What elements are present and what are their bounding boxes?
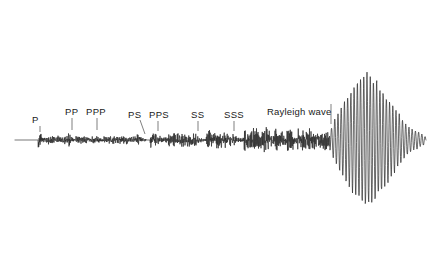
- phase-label-pps: PPS: [149, 110, 169, 120]
- phase-label-ps: PS: [128, 110, 141, 120]
- seismic-waveform-path: [15, 72, 426, 204]
- phase-label-p: P: [32, 115, 39, 125]
- seismogram-figure: P PP PPP PS PPS SS SSS Rayleigh wave: [0, 0, 439, 280]
- phase-label-ss: SS: [191, 110, 204, 120]
- phase-label-rayleigh-wave: Rayleigh wave: [267, 107, 331, 117]
- trace-group: [15, 72, 426, 204]
- phase-label-pp: PP: [65, 107, 78, 117]
- leader-tick-ps: [140, 120, 145, 134]
- phase-label-sss: SSS: [224, 110, 244, 120]
- phase-label-ppp: PPP: [86, 107, 106, 117]
- seismic-trace-svg: [0, 0, 439, 280]
